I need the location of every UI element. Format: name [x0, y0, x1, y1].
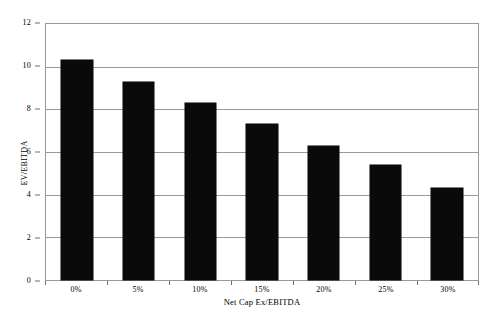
- bar-slot: [46, 24, 108, 280]
- bar-slot: [416, 24, 478, 280]
- x-tick-label-15pct: 15%: [231, 284, 293, 297]
- x-tick-label-20pct: 20%: [293, 284, 355, 297]
- bar-slot: [108, 24, 170, 280]
- x-tick-label-0pct: 0%: [45, 284, 107, 297]
- x-tick-label-25pct: 25%: [355, 284, 417, 297]
- x-tick-label-5pct: 5%: [107, 284, 169, 297]
- figure-caption: [0, 316, 495, 326]
- y-tick-mark: [35, 152, 40, 153]
- y-tick-label: 4: [27, 191, 31, 199]
- bar-0pct: [61, 60, 92, 280]
- bar-25pct: [370, 165, 401, 280]
- bar-15pct: [246, 124, 277, 280]
- x-axis-title: Net Cap Ex/EBITDA: [45, 297, 479, 307]
- bar-10pct: [185, 103, 216, 280]
- bar-5pct: [123, 82, 154, 280]
- y-tick-mark: [35, 108, 40, 109]
- bar-slot: [293, 24, 355, 280]
- y-tick-label: 2: [27, 234, 31, 242]
- bar-slot: [355, 24, 417, 280]
- y-tick-mark: [35, 66, 40, 67]
- y-tick-label: 6: [27, 148, 31, 156]
- y-tick-label: 10: [23, 62, 31, 70]
- y-tick-label: 12: [23, 19, 31, 27]
- bar-slot: [231, 24, 293, 280]
- x-tick-label-10pct: 10%: [169, 284, 231, 297]
- y-tick-mark: [35, 237, 40, 238]
- bar-20pct: [308, 146, 339, 280]
- bars-layer: [46, 24, 478, 280]
- y-tick-mark: [35, 195, 40, 196]
- plot-area: [45, 23, 479, 281]
- bar-slot: [169, 24, 231, 280]
- bar-chart-figure: EV/EBITDA 12 10 8 6 4 2 0: [0, 0, 495, 326]
- x-axis-labels: 0% 5% 10% 15% 20% 25% 30%: [45, 284, 479, 297]
- y-tick-mark: [35, 281, 40, 282]
- y-tick-label: 0: [27, 277, 31, 285]
- y-tick-mark: [35, 23, 40, 24]
- y-axis: 12 10 8 6 4 2 0: [0, 23, 40, 281]
- x-tick-label-30pct: 30%: [417, 284, 479, 297]
- bar-30pct: [431, 188, 462, 280]
- y-tick-label: 8: [27, 105, 31, 113]
